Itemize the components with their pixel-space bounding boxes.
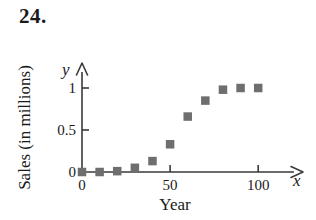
data-point-marker: [131, 164, 140, 173]
axis-ticks-group: [82, 88, 258, 172]
data-markers-group: [78, 84, 263, 177]
y-tick-label: 0.5: [57, 123, 76, 138]
x-axis-title: Year: [120, 196, 230, 213]
data-point-marker: [78, 168, 87, 177]
data-point-marker: [148, 157, 157, 166]
y-tick-label: 1: [69, 81, 77, 96]
data-point-marker: [201, 96, 210, 105]
data-point-marker: [113, 167, 122, 176]
data-point-marker: [166, 140, 175, 149]
data-point-marker: [254, 84, 263, 93]
data-point-marker: [219, 85, 228, 94]
x-tick-label: 50: [163, 178, 178, 193]
data-point-marker: [236, 84, 245, 93]
figure-container: 24. Sales (in millions) 00.51 050100 y x…: [0, 0, 316, 220]
y-tick-label: 0: [69, 165, 77, 180]
x-axis-variable-letter: x: [293, 172, 301, 189]
x-tick-label: 100: [247, 178, 270, 193]
plot-area: 00.51 050100: [0, 0, 316, 220]
data-point-marker: [95, 168, 104, 177]
x-tick-label: 0: [78, 178, 86, 193]
data-point-marker: [183, 112, 192, 121]
y-axis-variable-letter: y: [62, 61, 70, 78]
